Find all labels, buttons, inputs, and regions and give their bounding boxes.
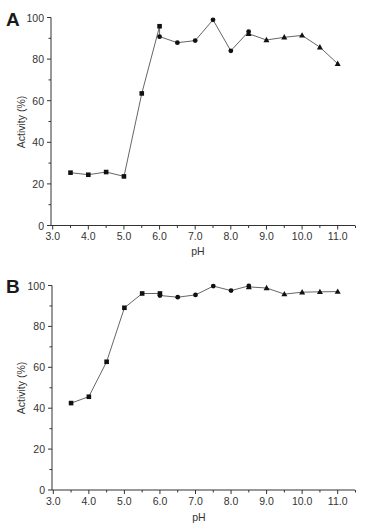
data-point-square — [86, 172, 91, 177]
panel-a: A pH Activity (%) 0204060801003.04.05.06… — [6, 9, 356, 257]
y-tick-label: 80 — [32, 53, 44, 65]
panel-label: B — [6, 276, 20, 297]
y-axis-title: Activity (%) — [15, 96, 27, 149]
data-point-square — [139, 91, 144, 96]
data-point-triangle — [299, 32, 305, 37]
x-tick-label: 7.0 — [188, 230, 203, 242]
x-tick-label: 3.0 — [46, 495, 61, 507]
x-tick-label: 10.0 — [292, 495, 313, 507]
y-tick-label: 60 — [32, 95, 44, 107]
y-tick-label: 40 — [33, 402, 45, 414]
data-point-square — [122, 174, 127, 179]
y-tick-label: 100 — [26, 12, 44, 24]
data-point-circle — [193, 38, 198, 43]
y-tick-label: 80 — [33, 320, 45, 332]
data-point-triangle — [335, 288, 341, 293]
panel-b: B pH Activity (%) 0204060801003.04.05.06… — [6, 276, 355, 523]
x-axis-title: pH — [191, 245, 204, 257]
data-point-triangle — [317, 44, 323, 49]
x-tick-label: 6.0 — [153, 495, 168, 507]
x-tick-label: 8.0 — [224, 495, 239, 507]
x-tick-label: 11.0 — [328, 230, 348, 242]
data-point-circle — [175, 40, 180, 45]
data-point-square — [104, 359, 109, 364]
x-tick-label: 11.0 — [328, 495, 348, 507]
y-tick-label: 100 — [27, 280, 45, 292]
data-line — [71, 20, 338, 177]
data-point-square — [122, 305, 127, 310]
x-tick-label: 5.0 — [117, 230, 132, 242]
data-point-circle — [157, 34, 162, 39]
y-tick-label: 60 — [33, 361, 45, 373]
x-axis-title: pH — [192, 511, 205, 523]
data-line — [71, 286, 338, 403]
data-point-square — [69, 401, 74, 406]
data-point-square — [140, 291, 145, 296]
y-tick-label: 20 — [33, 443, 45, 455]
x-tick-label: 5.0 — [117, 495, 132, 507]
data-point-square — [87, 394, 92, 399]
data-point-square — [68, 170, 73, 175]
data-point-circle — [193, 293, 198, 298]
y-axis-title: Activity (%) — [15, 362, 27, 415]
data-point-circle — [211, 284, 216, 289]
x-tick-label: 6.0 — [152, 230, 167, 242]
x-tick-label: 3.0 — [45, 230, 60, 242]
figure: A pH Activity (%) 0204060801003.04.05.06… — [0, 0, 365, 532]
x-tick-label: 7.0 — [188, 495, 203, 507]
x-tick-label: 10.0 — [292, 230, 313, 242]
data-point-circle — [229, 288, 234, 293]
data-point-square — [104, 170, 109, 175]
panel-label: A — [6, 9, 20, 30]
y-tick-label: 0 — [38, 220, 44, 232]
data-point-circle — [211, 17, 216, 22]
x-tick-label: 8.0 — [224, 230, 239, 242]
y-tick-label: 0 — [39, 484, 45, 496]
x-tick-label: 9.0 — [259, 230, 274, 242]
data-point-square — [157, 24, 162, 29]
x-tick-label: 4.0 — [81, 230, 96, 242]
y-tick-label: 40 — [32, 136, 44, 148]
y-tick-label: 20 — [32, 178, 44, 190]
data-point-circle — [158, 293, 163, 298]
data-point-circle — [228, 48, 233, 53]
x-tick-label: 9.0 — [259, 495, 274, 507]
x-tick-label: 4.0 — [82, 495, 97, 507]
data-point-circle — [175, 295, 180, 300]
